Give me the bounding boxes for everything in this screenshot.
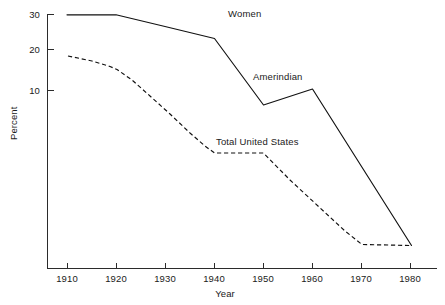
series-label-amerindian: Amerindian (253, 71, 303, 82)
x-tick-label-1930: 1930 (154, 274, 176, 284)
y-tick-label-10: 10 (24, 86, 40, 96)
series-label-total-united-states: Total United States (216, 136, 299, 147)
chart-plot-area (0, 0, 445, 305)
x-tick-label-1970: 1970 (350, 274, 372, 284)
x-tick-label-1940: 1940 (203, 274, 225, 284)
x-axis-ticks (68, 263, 411, 269)
y-axis-ticks (48, 15, 55, 91)
series-line-amerindian (67, 15, 412, 246)
series-label-women: Women (228, 8, 261, 19)
x-axis-title: Year (215, 288, 235, 299)
y-axis-title: Percent (8, 107, 19, 140)
x-tick-label-1920: 1920 (105, 274, 127, 284)
chart-figure: 30 20 10 1910 1920 1930 1940 1950 1960 1… (0, 0, 445, 305)
y-tick-label-20: 20 (24, 45, 40, 55)
series-line-total-united-states (68, 56, 412, 246)
x-tick-label-1950: 1950 (252, 274, 274, 284)
x-tick-label-1980: 1980 (399, 274, 421, 284)
x-tick-label-1910: 1910 (56, 274, 78, 284)
y-tick-label-30: 30 (24, 10, 40, 20)
x-tick-label-1960: 1960 (301, 274, 323, 284)
